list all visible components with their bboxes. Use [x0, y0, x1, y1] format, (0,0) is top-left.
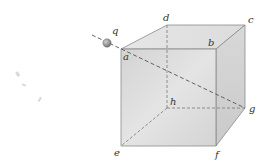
label-a: a	[123, 51, 129, 62]
label-f: f	[214, 149, 221, 160]
cube-front-face	[121, 49, 216, 146]
label-b: b	[208, 37, 214, 48]
cube-diagram: q a b c d e f g h	[0, 0, 269, 166]
label-h: h	[170, 96, 176, 107]
label-e: e	[114, 147, 120, 158]
label-c: c	[248, 14, 254, 25]
label-d: d	[163, 12, 169, 23]
label-g: g	[249, 103, 255, 114]
label-q: q	[112, 25, 118, 36]
background-artifacts	[15, 71, 42, 102]
charge-q-sphere	[103, 39, 111, 47]
